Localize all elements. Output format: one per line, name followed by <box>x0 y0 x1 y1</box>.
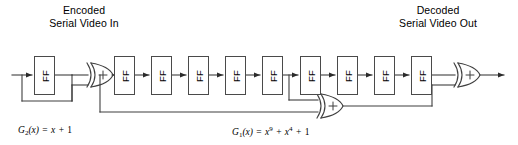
formula-g2-plus: + <box>58 125 65 135</box>
flipflop-label: FF <box>305 69 316 81</box>
flipflop-label: FF <box>379 69 390 81</box>
flipflop-g1-8: FF <box>374 56 395 95</box>
flipflop-label: FF <box>342 69 353 81</box>
flipflop-g1-7: FF <box>337 56 358 95</box>
formula-g1-plus1: + <box>275 127 282 137</box>
xor-fb-back-arc <box>317 94 321 118</box>
descrambler-diagram: Encoded Serial Video In Decoded Serial V… <box>0 0 518 145</box>
formula-g2-equals: = <box>41 125 48 135</box>
formula-g1-term3: 1 <box>305 127 310 137</box>
formula-g1: G1(x) = x9 + x4 + 1 <box>232 125 309 139</box>
formula-g2-term1: x <box>51 125 55 135</box>
formula-g1-term1-exp: 9 <box>269 125 273 133</box>
flipflop-label: FF <box>267 69 278 81</box>
flipflop-g1-5: FF <box>262 56 283 95</box>
flipflop-label: FF <box>156 69 167 81</box>
flipflop-g2-1: FF <box>34 56 55 95</box>
formula-g1-arg: (x) <box>242 127 253 137</box>
xor-out-body-left <box>458 63 462 87</box>
flipflop-label: FF <box>119 69 130 81</box>
flipflop-g1-9: FF <box>411 56 432 95</box>
flipflop-label: FF <box>193 69 204 81</box>
formula-g2-term2: 1 <box>67 125 72 135</box>
formula-g1-term2-exp: 4 <box>289 125 293 133</box>
formula-g2-name: G <box>18 125 25 135</box>
flipflop-label: FF <box>230 69 241 81</box>
formula-g1-plus2: + <box>295 127 302 137</box>
flipflop-label: FF <box>416 69 427 81</box>
xor-fb-body-left <box>321 94 325 118</box>
flipflop-label: FF <box>39 69 50 81</box>
flipflop-g1-2: FF <box>151 56 172 95</box>
formula-g2: G2(x) = x + 1 <box>18 125 72 137</box>
formula-g1-equals: = <box>255 127 262 137</box>
xor-g2-body-left <box>91 63 95 87</box>
flipflop-g1-3: FF <box>188 56 209 95</box>
flipflop-g1-6: FF <box>300 56 321 95</box>
wire-layer <box>0 0 518 145</box>
flipflop-g1-4: FF <box>225 56 246 95</box>
formula-g1-name: G <box>232 127 239 137</box>
flipflop-g1-1: FF <box>114 56 135 95</box>
formula-g2-arg: (x) <box>28 125 39 135</box>
